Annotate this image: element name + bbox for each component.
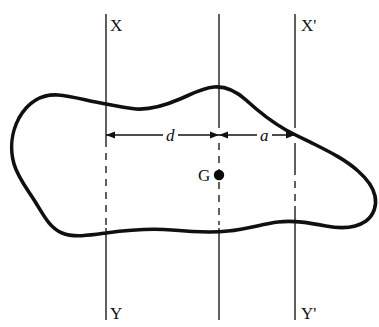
axis-label-x: X [110, 17, 122, 34]
arrow-head [106, 131, 115, 138]
dimension-label-a: a [257, 127, 272, 144]
dimension-label-d: d [163, 127, 178, 144]
arrow-head [219, 131, 228, 138]
centroid-dot [214, 170, 224, 180]
centroid-label-g: G [198, 167, 210, 184]
area-outline-path [12, 87, 376, 236]
axis-label-y-prime: Y' [301, 305, 316, 322]
arrow-head [210, 131, 219, 138]
diagram-canvas [0, 0, 379, 327]
axis-label-x-prime: X' [301, 17, 316, 34]
axis-label-y: Y [110, 305, 122, 322]
figure-container: X Y X' Y' d a G [0, 0, 379, 327]
